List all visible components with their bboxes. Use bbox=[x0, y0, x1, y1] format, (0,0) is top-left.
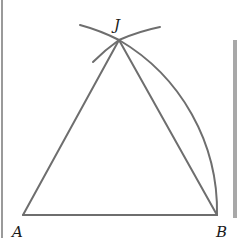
construction-diagram: J A B bbox=[0, 0, 238, 238]
segment-bj bbox=[119, 40, 217, 215]
segment-aj bbox=[23, 40, 119, 215]
label-j: J bbox=[111, 16, 121, 34]
label-b: B bbox=[215, 223, 227, 238]
label-a: A bbox=[10, 223, 23, 238]
